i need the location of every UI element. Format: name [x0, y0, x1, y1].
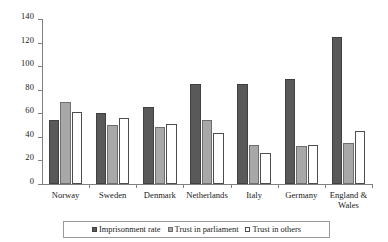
bar-group: [278, 19, 325, 184]
x-axis-tick-mark: [372, 184, 373, 188]
category-label: England &Wales: [319, 190, 378, 210]
bar: [60, 102, 71, 185]
bar: [249, 145, 260, 184]
y-axis-tick-label: 20: [25, 153, 34, 162]
bar: [49, 120, 60, 184]
x-axis-tick-mark: [89, 184, 90, 188]
bar: [202, 120, 213, 184]
y-axis-tick-label: 0: [30, 177, 34, 186]
y-axis-tick-label: 120: [21, 36, 34, 45]
bar: [296, 146, 307, 184]
chart-root: 020406080100120140 NorwaySwedenDenmarkNe…: [0, 0, 388, 242]
chart-legend: Imprisonment rateTrust in parliamentTrus…: [63, 221, 330, 238]
bar: [190, 84, 201, 184]
x-axis-tick-mark: [136, 184, 137, 188]
x-axis-line: [42, 184, 372, 185]
bar-group: [89, 19, 136, 184]
legend-swatch-icon: [245, 227, 250, 232]
bar: [332, 37, 343, 184]
y-axis-tick-label: 80: [25, 83, 34, 92]
legend-swatch-icon: [168, 227, 173, 232]
x-axis-tick-mark: [325, 184, 326, 188]
bar: [285, 79, 296, 184]
bar: [72, 112, 83, 184]
bar-chart-plot: 020406080100120140 NorwaySwedenDenmarkNe…: [0, 0, 388, 242]
x-axis-tick-mark: [231, 184, 232, 188]
legend-item[interactable]: Trust in others: [245, 225, 301, 235]
bar-group: [231, 19, 278, 184]
bar: [107, 125, 118, 184]
y-axis-tick-mark: [38, 184, 42, 185]
bar-group: [325, 19, 372, 184]
bar: [119, 118, 130, 184]
legend-label: Trust in parliament: [175, 225, 239, 235]
bar: [96, 113, 107, 184]
y-axis-tick-label: 40: [25, 130, 34, 139]
bar: [237, 84, 248, 184]
legend-item[interactable]: Imprisonment rate: [92, 225, 161, 235]
y-axis-tick-label: 140: [21, 12, 34, 21]
legend-label: Trust in others: [252, 225, 301, 235]
bar: [213, 133, 224, 184]
legend-swatch-icon: [92, 227, 97, 232]
x-axis-tick-mark: [183, 184, 184, 188]
x-axis-tick-mark: [278, 184, 279, 188]
bar: [343, 143, 354, 184]
bar: [143, 107, 154, 184]
bar-group: [42, 19, 89, 184]
bar: [166, 124, 177, 184]
bar: [308, 145, 319, 184]
bar-group: [136, 19, 183, 184]
bar: [260, 153, 271, 184]
y-axis-tick-label: 60: [25, 106, 34, 115]
bar-groups: [42, 19, 372, 184]
legend-label: Imprisonment rate: [99, 225, 161, 235]
bar-group: [183, 19, 230, 184]
bar: [155, 127, 166, 184]
legend-item[interactable]: Trust in parliament: [168, 225, 239, 235]
bar: [355, 131, 366, 184]
y-axis-tick-label: 100: [21, 59, 34, 68]
